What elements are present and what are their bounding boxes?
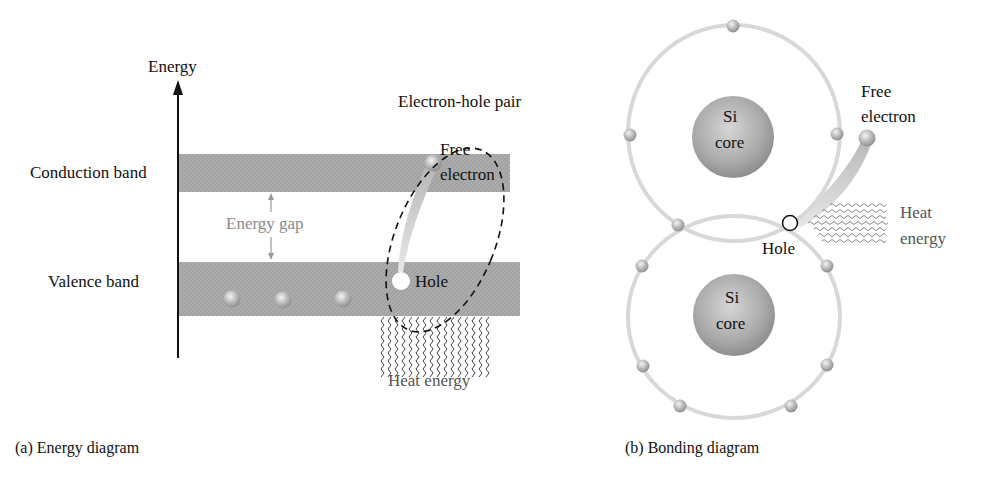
si-core-bottom-label-line2: core	[716, 315, 745, 332]
free-electron	[859, 130, 876, 147]
bond-electron	[727, 20, 740, 33]
si-core-top-label-line1: Si	[723, 108, 737, 125]
bond-electron	[624, 129, 637, 142]
hole	[392, 272, 410, 290]
bond-electron	[674, 400, 687, 413]
valence-electron	[335, 291, 352, 308]
energy-gap-label: Energy gap	[226, 215, 304, 232]
conduction-band-label: Conduction band	[30, 164, 147, 181]
bond-hole-label: Hole	[762, 240, 795, 257]
bond-electron	[821, 260, 834, 273]
free-electron-label-line1: Free	[440, 141, 470, 158]
valence-band	[179, 262, 520, 316]
bond-electron	[636, 260, 649, 273]
si-core-top-label-line2: core	[715, 134, 744, 151]
bond-heat-label-line1: Heat	[900, 204, 932, 221]
free-electron	[425, 155, 442, 172]
bond-free-electron-label-line2: electron	[861, 108, 916, 125]
hole	[783, 216, 798, 231]
si-core-bottom-label-line1: Si	[725, 289, 739, 306]
bonding-diagram	[624, 20, 889, 419]
heat-energy-label: Heat energy	[388, 372, 470, 389]
free-electron-label-line2: electron	[440, 166, 495, 183]
bond-electron	[637, 360, 650, 373]
heat-wave-icon	[381, 317, 489, 377]
bond-electron	[785, 400, 798, 413]
caption-bonding-diagram: (b) Bonding diagram	[625, 440, 759, 456]
valence-band-label: Valence band	[48, 273, 139, 290]
hole-label: Hole	[415, 273, 448, 290]
bond-electron	[672, 219, 685, 232]
caption-energy-diagram: (a) Energy diagram	[15, 440, 139, 456]
axis-arrow-icon	[173, 80, 183, 95]
energy-axis-label: Energy	[148, 58, 197, 75]
bond-electron	[821, 359, 834, 372]
bond-free-electron-label-line1: Free	[861, 83, 891, 100]
valence-electron	[224, 291, 241, 308]
electron-hole-pair-label: Electron-hole pair	[398, 93, 521, 110]
bond-electron	[831, 128, 844, 141]
valence-electron	[275, 292, 292, 309]
bond-heat-label-line2: energy	[900, 230, 946, 247]
